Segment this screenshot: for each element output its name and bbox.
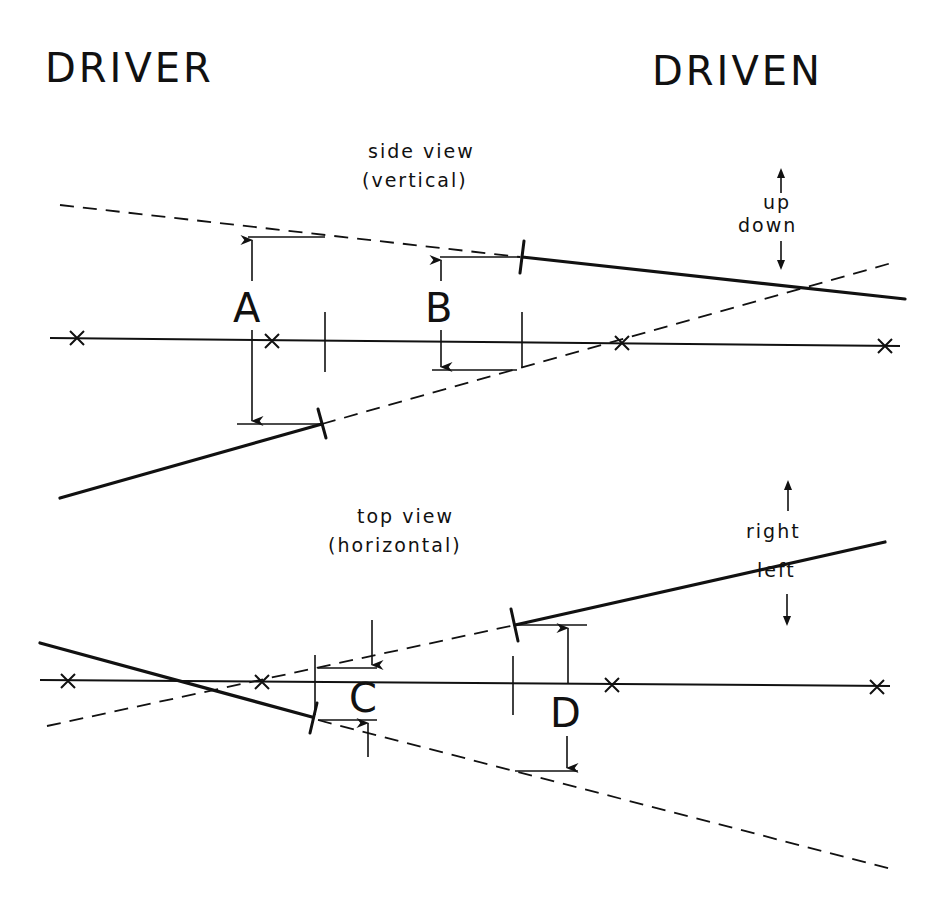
driver-heading: DRIVER [45,45,214,91]
dimension-b: B [425,257,520,370]
driver-shaft-line [60,424,322,498]
side-view: side view (vertical) up down [50,140,905,498]
top-view-subtitle: (horizontal) [328,534,462,556]
up-label: up [763,191,791,213]
dimension-d-label: D [550,690,581,736]
dimension-c-label: C [349,675,377,721]
top-view: top view (horizontal) right left [40,480,895,870]
down-label: down [738,214,797,236]
up-down-indicator: up down [738,168,797,270]
driven-shaft-line [522,257,905,299]
right-left-indicator: right left [746,480,801,626]
side-view-subtitle: (vertical) [362,169,468,191]
driven-shaft-projection [47,625,515,726]
driven-heading: DRIVEN [652,48,823,94]
bearing-x-icon [870,680,884,694]
side-view-centerline [50,338,900,346]
dimension-a-label: A [233,285,261,331]
shaft-alignment-diagram: DRIVER DRIVEN side view (vertical) up do… [0,0,943,903]
top-view-title: top view [357,505,454,527]
top-view-centerline [40,680,890,686]
dimension-d: D [515,625,587,771]
driven-shaft-projection [60,205,520,257]
driven-shaft-end-mark [520,241,524,273]
side-view-title: side view [368,140,475,162]
driven-shaft-line [515,542,885,625]
dimension-a: A [233,237,325,424]
right-label: right [746,520,801,542]
dimension-c: C [318,620,377,757]
dimension-b-label: B [425,285,452,331]
driver-shaft-projection [318,720,895,870]
